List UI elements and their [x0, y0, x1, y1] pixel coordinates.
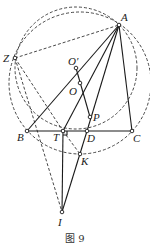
label-P: P: [92, 111, 100, 123]
segment-AD: [87, 25, 119, 131]
segment-TI: [62, 131, 63, 212]
figure-caption: 图 9: [65, 233, 85, 244]
label-Z: Z: [3, 52, 10, 64]
geometry-figure: A Z O′ O P B T D C K I 图 9: [0, 0, 150, 246]
point-A: [117, 23, 121, 27]
point-T: [61, 129, 65, 133]
segment-DI: [62, 131, 87, 212]
label-O: O: [69, 85, 77, 97]
segment-ZA: [15, 25, 119, 58]
segment-AC: [119, 25, 132, 131]
label-T: T: [53, 131, 60, 143]
point-B: [25, 129, 29, 133]
point-I: [60, 210, 64, 214]
label-O-prime: O′: [68, 55, 79, 67]
label-A: A: [120, 11, 128, 23]
segment-AB: [27, 25, 119, 131]
point-Z: [13, 56, 17, 60]
label-B: B: [17, 131, 24, 143]
label-I: I: [57, 216, 63, 228]
label-D: D: [86, 132, 95, 144]
label-K: K: [80, 155, 89, 167]
point-P: [88, 115, 92, 119]
segment-ZT: [15, 58, 63, 131]
point-O: [78, 81, 82, 85]
label-C: C: [133, 132, 141, 144]
segment-OprimeP: [76, 68, 90, 117]
